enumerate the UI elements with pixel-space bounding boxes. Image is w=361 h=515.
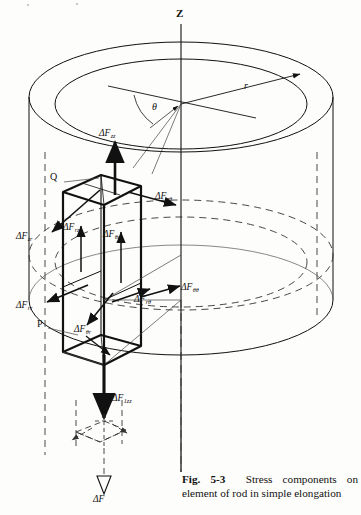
arrowhead-delta-F-total: [97, 476, 111, 494]
delta-F-z-theta-symbol: ΔF: [155, 191, 166, 201]
arrow-delta-F-rr: [47, 285, 88, 302]
label-delta-F-z-theta: ΔFzθ: [155, 192, 172, 202]
label-delta-F-total: ΔF: [93, 495, 104, 505]
projected-element-top: [76, 421, 126, 442]
label-delta-F-r-theta: ΔFrθ: [134, 295, 151, 305]
delta-F-zr-sub: zr: [28, 235, 33, 242]
figure-caption: Fig. 5-3 Stress components on element of…: [182, 472, 358, 500]
label-delta-F-rz: ΔFrz: [63, 223, 79, 233]
delta-F-rz-symbol: ΔF: [63, 222, 74, 232]
delta-F-zr-symbol: ΔF: [16, 231, 27, 241]
delta-F-r-theta-symbol: ΔF: [134, 294, 145, 304]
delta-F-zz-sub: zz: [111, 132, 116, 139]
element-top-face: [63, 175, 141, 205]
figure-number: Fig. 5-3: [182, 473, 225, 485]
theta-label: θ: [152, 102, 157, 112]
q-leader-line: [64, 178, 99, 182]
figure-container: Z r θ Q P ΔFzz ΔFzθ ΔFrz ΔFθz ΔFzr ΔFrr …: [0, 0, 361, 515]
delta-F-r-theta-sub: rθ: [146, 298, 151, 305]
label-delta-F-theta-z: ΔFθz: [103, 230, 120, 240]
delta-F-z-theta-sub: zθ: [167, 195, 172, 202]
delta-F-theta-z-sub: θz: [115, 233, 120, 240]
label-delta-F-rr: ΔFrr: [16, 301, 32, 311]
label-delta-F-theta-theta: ΔFθθ: [181, 283, 198, 293]
projected-element-arrow-left: [72, 428, 92, 440]
delta-F-theta-z-symbol: ΔF: [103, 229, 114, 239]
radius-arrow: [181, 74, 300, 104]
delta-F-theta-r-symbol: ΔF: [74, 324, 85, 334]
delta-F-theta-theta-symbol: ΔF: [181, 282, 192, 292]
delta-F-zz-symbol: ΔF: [99, 128, 110, 138]
rod-stress-diagram: [0, 0, 361, 515]
label-delta-F-theta-r: ΔFθr: [74, 325, 91, 335]
label-delta-F-zr: ΔFzr: [16, 232, 32, 242]
radius-label: r: [244, 81, 248, 91]
label-delta-F-zz: ΔFzz: [99, 129, 115, 139]
delta-F-rr-sub: rr: [28, 304, 33, 311]
theta-arc: [134, 95, 153, 124]
delta-F-rr-symbol: ΔF: [16, 300, 27, 310]
label-delta-F-1zz: ΔF1zz: [112, 394, 131, 404]
arrow-inner-top-detail: [86, 336, 110, 355]
delta-F-1zz-symbol: ΔF: [112, 393, 123, 403]
theta-leg-2: [152, 104, 181, 174]
z-axis-label: Z: [176, 8, 184, 19]
radial-ray-4: [63, 352, 104, 365]
delta-F-theta-r-sub: θr: [86, 328, 91, 335]
delta-F-theta-theta-sub: θθ: [193, 286, 199, 293]
point-q-label: Q: [50, 172, 57, 182]
element-mid-edge-left: [63, 271, 101, 287]
delta-F-rz-sub: rz: [75, 226, 80, 233]
projected-element-bottom-edge: [76, 430, 126, 442]
arrow-delta-F-theta-r: [87, 293, 113, 325]
projected-element-arrow-right: [112, 424, 127, 433]
delta-F-1zz-sub: 1zz: [124, 397, 132, 404]
theta-leg-1: [133, 104, 181, 168]
point-p-label: P: [37, 319, 43, 329]
delta-F-total-symbol: ΔF: [93, 494, 104, 504]
